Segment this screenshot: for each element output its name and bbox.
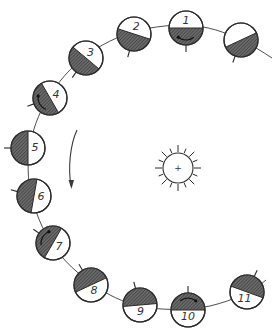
body-number-label: 8	[90, 284, 97, 297]
orbit-body: 9	[123, 282, 157, 322]
body-number-label: 6	[37, 190, 44, 203]
sun-ray	[184, 183, 186, 188]
orbit-body: 4	[27, 81, 67, 115]
orbit-body: 11	[230, 270, 264, 309]
orbit-path	[28, 25, 272, 309]
sun-ray	[159, 174, 164, 176]
body-number-label: 9	[137, 305, 144, 318]
body-number-label: 2	[133, 20, 140, 33]
orbit-phase-diagram: 1234567891011 +	[0, 0, 277, 330]
body-number-label: 10	[181, 310, 195, 323]
arrowhead-icon	[47, 230, 50, 233]
shaded-half	[169, 28, 203, 45]
sun-center-mark: +	[174, 163, 182, 173]
sun-ray	[193, 174, 198, 176]
shaded-half	[11, 131, 28, 165]
arrowhead-icon	[177, 36, 180, 39]
orbit-body: 2	[117, 17, 151, 57]
orbit-body: 6	[11, 179, 51, 213]
orbit-body	[224, 23, 258, 63]
body-number-label: 7	[56, 240, 63, 253]
arrowhead-icon	[69, 180, 75, 189]
sun-ray	[170, 183, 172, 188]
sun-ray	[159, 160, 164, 162]
sun-ray	[184, 149, 186, 154]
orbit-body: 3	[69, 41, 103, 78]
body-number-label: 1	[183, 14, 190, 27]
body-number-label: 5	[32, 141, 39, 154]
arrowhead-icon	[194, 299, 197, 302]
orbit-body: 7	[33, 226, 70, 260]
orbit-body: 1	[169, 11, 203, 52]
arrowhead-icon	[37, 94, 40, 97]
orbit-body: 8	[74, 264, 108, 302]
sun-ray	[170, 149, 172, 154]
direction-arrow	[69, 130, 78, 189]
body-number-label: 11	[238, 292, 252, 305]
sun-ray	[193, 160, 198, 162]
orbit-body: 10	[171, 286, 205, 327]
sun-ray	[189, 179, 194, 184]
shaded-half	[171, 293, 205, 310]
sun-ray	[162, 152, 167, 157]
sun-ray	[189, 152, 194, 157]
sun-ray	[162, 179, 167, 184]
body-number-label: 3	[87, 46, 94, 59]
body-number-label: 4	[53, 88, 60, 101]
orbit-body: 5	[4, 131, 45, 165]
orbiting-bodies: 1234567891011	[4, 11, 264, 327]
